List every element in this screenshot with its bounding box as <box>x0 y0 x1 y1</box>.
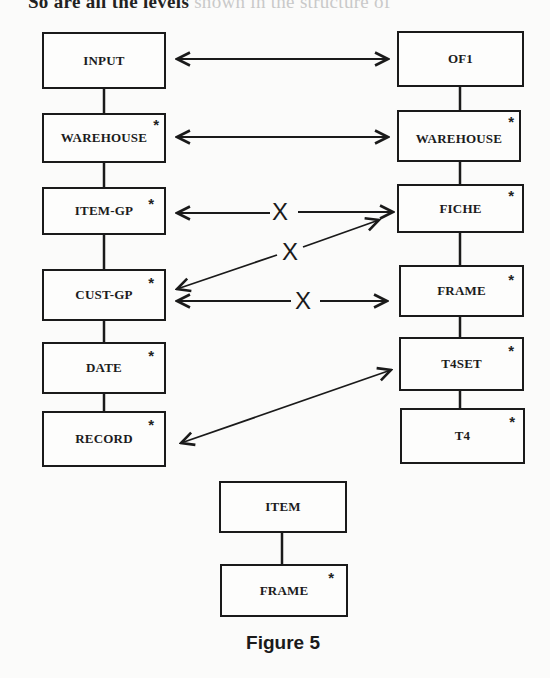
repeat-star-icon: * <box>508 187 514 204</box>
node-item: ITEM <box>219 481 347 533</box>
node-input: INPUT <box>42 32 166 89</box>
node-fiche: FICHE * <box>397 184 524 233</box>
repeat-star-icon: * <box>508 271 514 288</box>
repeat-star-icon: * <box>508 342 514 359</box>
node-label: DATE <box>86 360 122 376</box>
repeat-star-icon: * <box>508 113 514 130</box>
repeat-star-icon: * <box>328 569 334 586</box>
node-label: WAREHOUSE <box>416 125 502 147</box>
node-item-gp: ITEM-GP * <box>42 187 166 235</box>
cross-mark-custgp-frame: X <box>295 287 311 315</box>
node-label: RECORD <box>75 431 133 447</box>
node-label: CUST-GP <box>75 287 132 303</box>
repeat-star-icon: * <box>148 274 154 291</box>
cross-mark-itemgp-fiche: X <box>272 198 288 226</box>
node-record: RECORD * <box>42 411 166 467</box>
node-label: ITEM <box>265 499 300 515</box>
node-t4set: T4SET * <box>399 337 524 391</box>
figure-caption: Figure 5 <box>0 632 550 654</box>
arrow-custgp-diag-right <box>303 220 379 247</box>
node-label: T4SET <box>441 356 482 372</box>
repeat-star-icon: * <box>148 195 154 212</box>
node-frame-bottom: FRAME * <box>220 564 348 617</box>
node-label: ITEM-GP <box>75 203 133 219</box>
cross-mark-custgp-fiche: X <box>282 238 298 266</box>
node-warehouse-left: WAREHOUSE * <box>42 113 166 163</box>
node-label: FRAME <box>260 583 309 599</box>
repeat-star-icon: * <box>148 347 154 364</box>
node-label: WAREHOUSE <box>61 130 147 146</box>
node-frame-right: FRAME * <box>399 265 524 317</box>
node-label: FICHE <box>439 201 481 217</box>
node-label: FRAME <box>437 283 486 299</box>
node-cust-gp: CUST-GP * <box>42 269 166 321</box>
repeat-star-icon: * <box>509 413 515 430</box>
arrow-record-t4set <box>181 370 391 443</box>
node-label: T4 <box>455 428 471 444</box>
node-of1: OF1 <box>397 31 524 87</box>
node-warehouse-right: WAREHOUSE * <box>397 110 521 162</box>
repeat-star-icon: * <box>148 416 154 433</box>
arrow-custgp-diag-left <box>177 255 277 289</box>
node-label: OF1 <box>448 51 473 67</box>
repeat-star-icon: * <box>153 116 159 133</box>
node-date: DATE * <box>42 342 166 394</box>
node-label: INPUT <box>83 53 124 69</box>
node-t4: T4 * <box>400 408 525 464</box>
